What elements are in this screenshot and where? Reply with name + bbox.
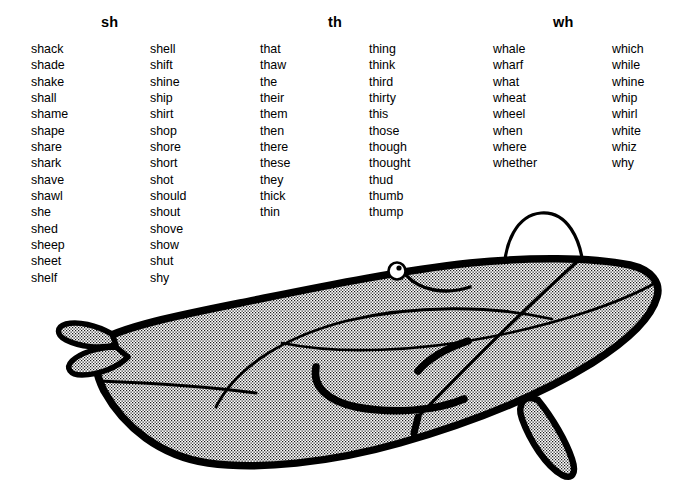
word-item: though — [369, 139, 410, 155]
word-item: shall — [31, 90, 68, 106]
word-item: think — [369, 57, 410, 73]
word-item: what — [493, 74, 537, 90]
word-item: whine — [612, 74, 644, 90]
word-item: wheat — [493, 90, 537, 106]
word-item: thing — [369, 41, 410, 57]
word-item: shack — [31, 41, 68, 57]
word-item: wheel — [493, 106, 537, 122]
page-root: shthwh shackshadeshakeshallshameshapesha… — [0, 0, 675, 491]
word-item: wharf — [493, 57, 537, 73]
word-item: shift — [150, 57, 187, 73]
word-item: thaw — [260, 57, 290, 73]
word-item: this — [369, 106, 410, 122]
word-item: they — [260, 172, 290, 188]
word-item: shark — [31, 155, 68, 171]
word-item: thud — [369, 172, 410, 188]
word-item: shame — [31, 106, 68, 122]
word-item: then — [260, 123, 290, 139]
th-column-1: thatthawthetheirthemthentherethesetheyth… — [260, 41, 290, 221]
word-item: whip — [612, 90, 644, 106]
wh-column-1: whalewharfwhatwheatwheelwhenwherewhether — [493, 41, 537, 172]
word-item: whirl — [612, 106, 644, 122]
whale-eye — [389, 263, 406, 280]
word-item: these — [260, 155, 290, 171]
word-item: shade — [31, 57, 68, 73]
wh-column-2: whichwhilewhinewhipwhirlwhitewhizwhy — [612, 41, 644, 172]
word-item: when — [493, 123, 537, 139]
word-item: third — [369, 74, 410, 90]
word-item: that — [260, 41, 290, 57]
word-item: whether — [493, 155, 537, 171]
word-item: shine — [150, 74, 187, 90]
word-item: shape — [31, 123, 68, 139]
whale-body — [94, 259, 657, 466]
word-item: there — [260, 139, 290, 155]
word-item: white — [612, 123, 644, 139]
word-item: shell — [150, 41, 187, 57]
word-item: which — [612, 41, 644, 57]
word-item: their — [260, 90, 290, 106]
word-item: whale — [493, 41, 537, 57]
word-item: why — [612, 155, 644, 171]
word-item: short — [150, 155, 187, 171]
word-item: where — [493, 139, 537, 155]
word-item: ship — [150, 90, 187, 106]
whale-illustration — [0, 195, 675, 491]
word-item: shave — [31, 172, 68, 188]
word-item: those — [369, 123, 410, 139]
whale-flipper — [520, 398, 574, 477]
word-item: shot — [150, 172, 187, 188]
th-column-2: thingthinkthirdthirtythisthosethoughthou… — [369, 41, 410, 221]
word-item: shake — [31, 74, 68, 90]
word-item: whiz — [612, 139, 644, 155]
word-item: shop — [150, 123, 187, 139]
word-item: share — [31, 139, 68, 155]
word-item: thought — [369, 155, 410, 171]
word-item: them — [260, 106, 290, 122]
word-item: shirt — [150, 106, 187, 122]
word-item: while — [612, 57, 644, 73]
whale-arm-stroke — [414, 417, 418, 433]
word-item: the — [260, 74, 290, 90]
word-item: shore — [150, 139, 187, 155]
word-item: thirty — [369, 90, 410, 106]
